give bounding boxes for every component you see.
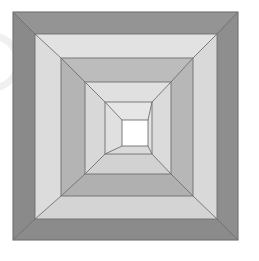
center-square [122, 120, 148, 146]
ring-1-outer-left-face [13, 12, 35, 240]
ring-2-right-face [193, 34, 217, 219]
ring-2-top-face [35, 34, 217, 58]
ring-1-outer-bottom-face [13, 219, 238, 240]
ring-1-outer-top-face [13, 12, 238, 34]
ring-2-left-face [35, 34, 61, 219]
illustration-canvas [0, 0, 259, 261]
nested-square-tunnel-figure [0, 0, 259, 261]
ring-1-outer-right-face [217, 12, 238, 240]
ring-2-bottom-face [35, 196, 217, 219]
